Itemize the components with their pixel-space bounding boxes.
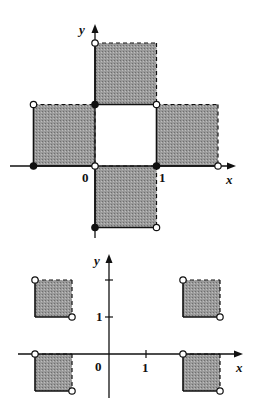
bottom-x1-label: 1 <box>142 360 149 375</box>
bottom-origin-label: 0 <box>95 359 102 374</box>
top-x1-label: 1 <box>159 170 166 185</box>
bottom-point-open <box>69 388 75 394</box>
bottom-point-open <box>32 277 38 283</box>
bottom-square-top-right-fill <box>183 280 220 317</box>
bottom-y-axis-label: y <box>92 253 100 268</box>
top-x-axis-label: x <box>225 172 233 187</box>
top-square-left-fill <box>34 105 96 167</box>
top-x-arrow-icon <box>227 163 236 170</box>
top-y-arrow-icon <box>92 24 99 33</box>
bottom-square-bottom-left-fill <box>35 354 72 391</box>
bottom-point-open <box>32 351 38 357</box>
bottom-point-open <box>217 388 223 394</box>
bottom-square-top-left-fill <box>35 280 72 317</box>
top-y-axis-label: y <box>77 22 85 37</box>
top-square-up-fill <box>95 43 157 105</box>
top-point-closed <box>92 224 98 230</box>
bottom-y1-label: 1 <box>96 309 103 324</box>
top-point-closed <box>30 163 36 169</box>
top-square-right-fill <box>157 105 219 167</box>
bottom-point-open <box>180 277 186 283</box>
top-point-open <box>153 101 159 107</box>
bottom-y-arrow-icon <box>106 254 113 263</box>
top-point-open <box>92 40 98 46</box>
top-point-open <box>153 224 159 230</box>
diagram-canvas: y x 0 1 y x 0 1 1 <box>0 0 257 399</box>
top-point-closed <box>92 101 98 107</box>
bottom-x-arrow-icon <box>234 351 243 358</box>
top-origin-label: 0 <box>82 170 89 185</box>
bottom-figure <box>18 254 243 398</box>
bottom-point-open <box>217 314 223 320</box>
top-point-open <box>215 163 221 169</box>
bottom-x-axis-label: x <box>235 360 243 375</box>
top-point-open <box>92 163 98 169</box>
top-figure <box>10 24 236 238</box>
top-point-open <box>30 101 36 107</box>
top-point-closed <box>153 163 159 169</box>
top-square-down-fill <box>95 166 157 228</box>
bottom-square-bottom-right-fill <box>183 354 220 391</box>
bottom-point-open <box>180 351 186 357</box>
bottom-point-open <box>69 314 75 320</box>
